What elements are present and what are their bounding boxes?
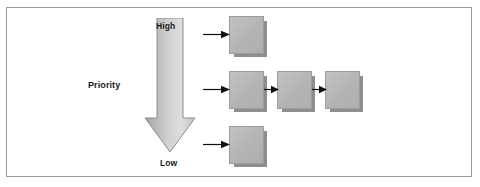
priority-high-label: High: [156, 21, 175, 31]
priority-axis-title: Priority: [88, 80, 120, 90]
diagram-canvas: High Low Priority: [0, 0, 480, 187]
process-box-medium-1[interactable]: [229, 71, 264, 109]
process-box-medium-2[interactable]: [277, 71, 312, 109]
arrow-to-low-box: [203, 140, 230, 149]
arrow-medium-1-to-2: [264, 85, 279, 94]
process-box-low[interactable]: [229, 126, 264, 164]
arrow-to-high-box: [203, 30, 230, 39]
priority-arrow: [144, 18, 196, 158]
arrow-to-medium-box: [203, 85, 230, 94]
process-box-medium-3[interactable]: [325, 71, 360, 109]
arrow-medium-2-to-3: [312, 85, 327, 94]
process-box-high[interactable]: [229, 16, 264, 54]
priority-low-label: Low: [160, 158, 177, 168]
